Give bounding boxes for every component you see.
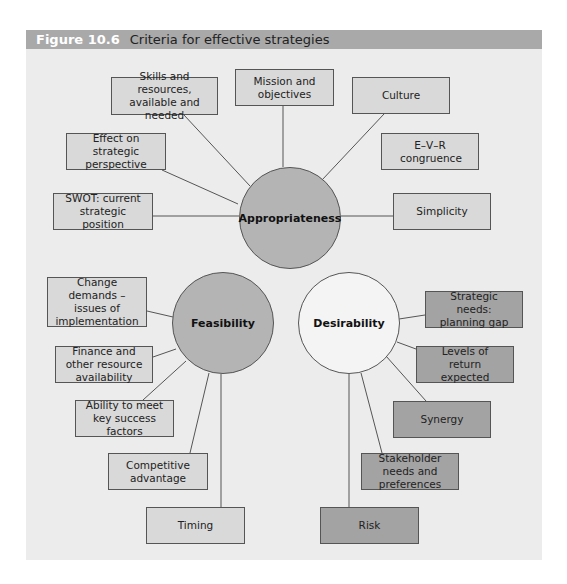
criterion-culture: Culture: [352, 77, 450, 114]
criterion-label: Stakeholder needs and preferences: [366, 452, 454, 491]
criterion-label: Levels of return expected: [427, 345, 503, 384]
criterion-label: Finance and other resource availability: [60, 345, 148, 384]
criterion-mission-objectives: Mission and objectives: [235, 69, 334, 106]
criterion-label: E–V–R congruence: [400, 139, 460, 165]
criterion-label: SWOT: current strategic position: [60, 192, 146, 231]
hub-desirability: Desirability: [298, 272, 400, 374]
criterion-label: Mission and objectives: [240, 75, 329, 101]
criterion-label: Simplicity: [416, 205, 467, 218]
criterion-finance-resources: Finance and other resource availability: [55, 346, 153, 383]
criterion-label: Risk: [359, 519, 381, 532]
criterion-skills-resources: Skills and resources, available and need…: [111, 77, 218, 115]
criterion-key-success-factors: Ability to meet key success factors: [75, 400, 174, 437]
hub-feasibility-label: Feasibility: [191, 317, 255, 330]
hub-feasibility: Feasibility: [172, 272, 274, 374]
criterion-label: Competitive advantage: [123, 459, 193, 485]
criterion-label: Ability to meet key success factors: [80, 399, 169, 438]
criterion-change-demands: Change demands – issues of implementatio…: [47, 277, 147, 327]
criterion-synergy: Synergy: [393, 401, 491, 438]
criterion-label: Skills and resources, available and need…: [116, 70, 213, 122]
hub-desirability-label: Desirability: [313, 317, 384, 330]
criterion-label: Timing: [178, 519, 213, 532]
criterion-simplicity: Simplicity: [393, 193, 491, 230]
criterion-evr-congruence: E–V–R congruence: [381, 133, 479, 170]
criterion-label: Synergy: [420, 413, 463, 426]
criterion-risk: Risk: [320, 507, 419, 544]
criterion-swot: SWOT: current strategic position: [53, 193, 153, 230]
criterion-strategic-needs: Strategic needs: planning gap: [425, 291, 523, 328]
criterion-stakeholder-needs: Stakeholder needs and preferences: [361, 453, 459, 490]
criterion-label: Change demands – issues of implementatio…: [53, 276, 141, 328]
hub-appropriateness-label: Appropriateness: [239, 212, 342, 225]
criterion-competitive-advantage: Competitive advantage: [108, 453, 208, 490]
criterion-label: Strategic needs: planning gap: [434, 290, 514, 329]
criterion-timing: Timing: [146, 507, 245, 544]
criterion-label: Effect on strategic perspective: [71, 132, 161, 171]
criterion-label: Culture: [382, 89, 420, 102]
criterion-effect-strategic-perspective: Effect on strategic perspective: [66, 133, 166, 170]
hub-appropriateness: Appropriateness: [239, 167, 341, 269]
criterion-levels-of-return: Levels of return expected: [416, 346, 514, 383]
